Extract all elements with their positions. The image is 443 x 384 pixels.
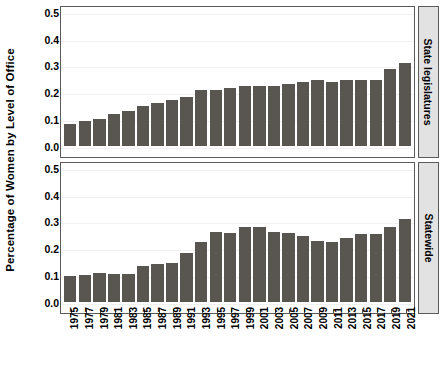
- y-axis-tick-label: 0.2: [44, 243, 59, 255]
- y-axis-tick-label: 0.5: [44, 7, 59, 19]
- bar-series-top: [61, 7, 414, 157]
- strip-label-state-legislatures: State legislatures: [418, 6, 439, 158]
- bar-series-bottom: [61, 163, 414, 313]
- bar: [311, 80, 323, 146]
- x-axis: 1975197719791981198319851987198919911993…: [60, 316, 415, 372]
- x-axis-tick-label: 2013: [341, 316, 353, 372]
- bar: [210, 232, 222, 302]
- bar: [224, 88, 236, 146]
- bar: [195, 242, 207, 301]
- bar: [166, 100, 178, 145]
- bar: [326, 242, 338, 302]
- bar: [122, 274, 134, 302]
- plot-area-bottom: [60, 162, 415, 314]
- x-axis-tick-label: 1995: [209, 316, 221, 372]
- bar: [108, 274, 120, 302]
- y-axis-tick-label: 0.4: [44, 190, 59, 202]
- bar: [355, 234, 367, 301]
- bar: [311, 241, 323, 302]
- y-axis-title-text: Percentage of Women by Level of Office: [4, 48, 16, 271]
- y-axis-tick-label: 0.4: [44, 34, 59, 46]
- bar: [297, 236, 309, 301]
- plot-area-top: [60, 6, 415, 158]
- x-axis-tick-label-text: 2021: [406, 307, 417, 329]
- bar: [340, 238, 352, 301]
- bar: [399, 219, 411, 301]
- bar: [268, 232, 280, 302]
- x-axis-tick-label: 1991: [180, 316, 192, 372]
- bar: [93, 119, 105, 146]
- bar: [180, 97, 192, 145]
- panel-state-legislatures: 0.00.10.20.30.40.5 State legislatures: [38, 6, 439, 158]
- x-axis-tick-label: 1983: [122, 316, 134, 372]
- bar: [224, 233, 236, 302]
- bar: [297, 82, 309, 145]
- strip-label-text: Statewide: [423, 213, 435, 262]
- bar: [239, 86, 251, 146]
- x-axis-tick-label: 1999: [239, 316, 251, 372]
- x-axis-tick-label: 1981: [107, 316, 119, 372]
- x-axis-tick-label: 2009: [312, 316, 324, 372]
- bar: [151, 264, 163, 301]
- y-axis-tick-label: 0.0: [44, 297, 59, 309]
- bar: [64, 276, 76, 302]
- y-axis-top: 0.00.10.20.30.40.5: [38, 6, 60, 158]
- bar: [282, 84, 294, 145]
- bar: [384, 69, 396, 146]
- x-axis-tick-label: 1979: [92, 316, 104, 372]
- y-axis-tick-label: 0.3: [44, 60, 59, 72]
- bar: [384, 227, 396, 301]
- bar: [64, 124, 76, 145]
- bar: [253, 86, 265, 146]
- bar: [239, 227, 251, 301]
- bar: [399, 63, 411, 146]
- bar: [370, 234, 382, 301]
- y-axis-tick-label: 0.1: [44, 270, 59, 282]
- bar: [108, 114, 120, 146]
- x-axis-tick-label: 1989: [165, 316, 177, 372]
- x-axis-tick-labels: 1975197719791981198319851987198919911993…: [60, 316, 415, 372]
- bar: [166, 263, 178, 301]
- bar: [151, 103, 163, 146]
- y-axis-tick-label: 0.2: [44, 87, 59, 99]
- x-axis-tick-label: 2019: [385, 316, 397, 372]
- chart-figure: Percentage of Women by Level of Office 0…: [0, 0, 443, 384]
- bar: [180, 253, 192, 301]
- x-axis-tick-label: 2011: [326, 316, 338, 372]
- x-axis-tick-label: 2001: [253, 316, 265, 372]
- x-axis-tick-label: 2015: [356, 316, 368, 372]
- bar: [195, 90, 207, 145]
- bar: [340, 80, 352, 146]
- x-axis-tick-label: 1975: [63, 316, 75, 372]
- y-axis-tick-label: 0.3: [44, 216, 59, 228]
- y-axis-tick-label: 0.0: [44, 141, 59, 153]
- x-axis-tick-label: 1985: [136, 316, 148, 372]
- y-axis-bottom: 0.00.10.20.30.40.5: [38, 162, 60, 314]
- x-axis-tick-label: 2005: [282, 316, 294, 372]
- bar: [355, 80, 367, 146]
- bar: [210, 90, 222, 145]
- bar: [253, 227, 265, 301]
- x-axis-tick-label: 2003: [268, 316, 280, 372]
- bar: [137, 266, 149, 302]
- bar: [282, 233, 294, 302]
- y-axis-title: Percentage of Women by Level of Office: [0, 0, 20, 320]
- strip-label-statewide: Statewide: [418, 162, 439, 314]
- bar: [93, 273, 105, 302]
- y-axis-tick-label: 0.5: [44, 163, 59, 175]
- x-axis-tick-label: 2021: [399, 316, 411, 372]
- bar: [370, 80, 382, 146]
- bar: [79, 275, 91, 302]
- y-axis-tick-label: 0.1: [44, 114, 59, 126]
- bar: [79, 121, 91, 145]
- panel-statewide: 0.00.10.20.30.40.5 Statewide: [38, 162, 439, 314]
- x-axis-tick-label: 2017: [370, 316, 382, 372]
- strip-label-text: State legislatures: [423, 39, 435, 126]
- bar: [326, 82, 338, 146]
- bar: [137, 106, 149, 146]
- bar: [122, 111, 134, 145]
- x-axis-tick-label: 1993: [195, 316, 207, 372]
- x-axis-tick-label: 1977: [78, 316, 90, 372]
- x-axis-tick-label: 1987: [151, 316, 163, 372]
- x-axis-tick-label: 2007: [297, 316, 309, 372]
